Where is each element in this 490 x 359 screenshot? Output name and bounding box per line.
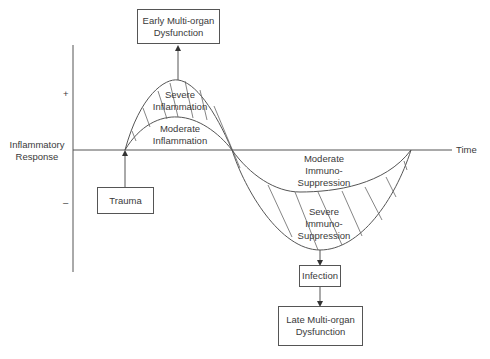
infection-box: Infection xyxy=(299,265,341,287)
severe-inflammation-label: Severe Inflammation xyxy=(148,89,212,113)
moderate-inflammation-label: Moderate Inflammation xyxy=(148,123,212,147)
x-axis-label: Time xyxy=(456,144,477,156)
early-mod-box: Early Multi-organ Dysfunction xyxy=(137,9,220,44)
late-mod-box: Late Multi-organ Dysfunction xyxy=(278,306,363,346)
y-axis-label: Inflammatory Response xyxy=(6,139,68,163)
minus-mark: – xyxy=(63,197,68,209)
diagram-canvas xyxy=(0,0,490,359)
plus-mark: + xyxy=(63,88,69,100)
moderate-immunosuppression-label: Moderate Immuno- Suppression xyxy=(290,153,358,189)
trauma-box: Trauma xyxy=(97,187,154,214)
severe-immunosuppression-label: Severe Immuno- Suppression xyxy=(290,206,358,242)
